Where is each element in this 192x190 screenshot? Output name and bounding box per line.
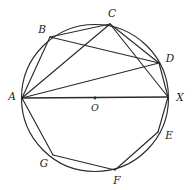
segment-CX xyxy=(110,24,168,97)
center-label-O: O xyxy=(91,102,99,113)
segment-FG xyxy=(53,155,115,170)
segment-EF xyxy=(115,132,158,170)
vertex-label-G: G xyxy=(40,157,48,169)
vertex-label-X: X xyxy=(175,91,184,103)
vertex-label-C: C xyxy=(108,7,116,19)
center-point-dot xyxy=(94,97,97,100)
vertex-label-F: F xyxy=(112,174,121,186)
vertex-label-A: A xyxy=(7,90,16,102)
geometry-canvas: O ABCDXEFG xyxy=(0,0,192,190)
vertex-label-B: B xyxy=(37,23,46,35)
vertex-label-E: E xyxy=(164,129,173,141)
vertex-label-D: D xyxy=(165,52,175,64)
geometry-figure: O ABCDXEFG xyxy=(0,0,192,190)
segment-AB xyxy=(22,37,50,98)
